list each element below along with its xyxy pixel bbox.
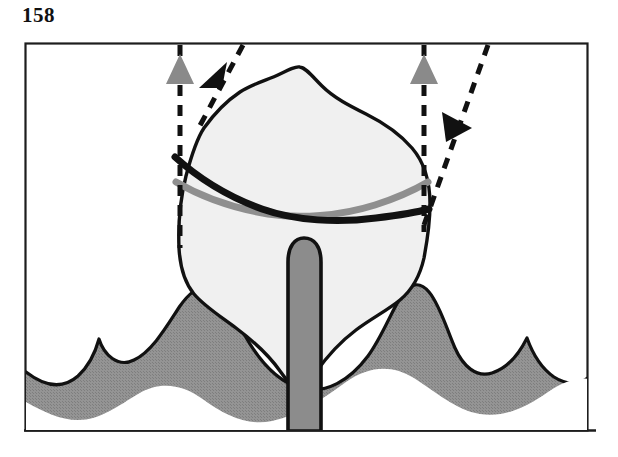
tooth-root-shape (288, 238, 321, 431)
page-canvas: 158 (0, 0, 618, 457)
tooth-root (288, 238, 321, 431)
tooth-eruption-diagram (0, 0, 618, 457)
